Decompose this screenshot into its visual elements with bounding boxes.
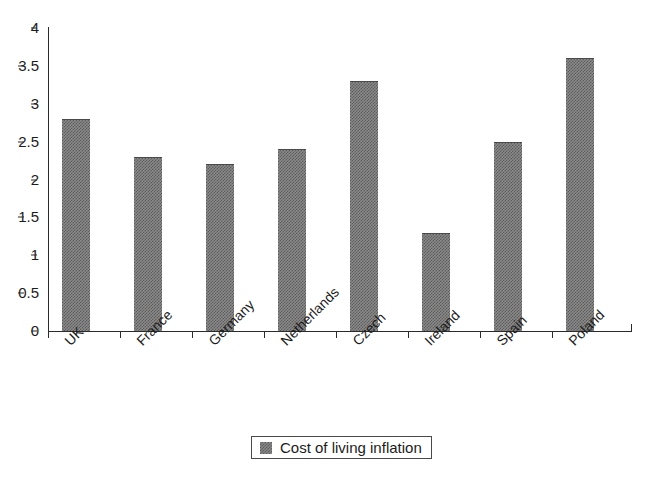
bar-spain <box>494 142 522 331</box>
bar-uk <box>62 119 90 331</box>
y-axis-tick-mark <box>31 255 37 256</box>
y-axis-tick-mark <box>31 103 37 104</box>
y-axis-tick: 4 <box>31 19 48 37</box>
bar-germany <box>206 164 234 331</box>
y-axis-tick: 2.5 <box>18 133 48 151</box>
x-axis-tick-mark <box>480 331 481 338</box>
x-axis-tick-mark <box>48 331 49 338</box>
bar-czech <box>350 81 378 331</box>
y-axis-tick-mark <box>18 65 24 66</box>
legend-entry-label: Cost of living inflation <box>280 440 422 455</box>
x-axis-tick-mark <box>264 331 265 338</box>
y-axis-tick-mark <box>18 293 24 294</box>
x-axis-tick-mark <box>336 331 337 338</box>
y-axis-tick: 1 <box>31 246 48 264</box>
bar-chart-figure: 0 0.5 1 1.5 2 2.5 3 3.5 <box>0 0 646 477</box>
y-axis-tick-mark <box>31 28 37 29</box>
legend-swatch-icon <box>260 442 272 454</box>
y-axis-tick-mark <box>31 179 37 180</box>
y-axis-tick: 1.5 <box>18 208 48 226</box>
y-axis-tick: 0 <box>31 322 48 340</box>
x-axis-tick-mark <box>408 331 409 338</box>
x-axis-tick-mark <box>120 331 121 338</box>
y-axis-tick-mark <box>31 331 37 332</box>
x-axis-tick-mark <box>552 331 553 338</box>
y-axis-tick-mark <box>18 141 24 142</box>
x-axis-line <box>48 331 632 332</box>
bar-france <box>134 157 162 331</box>
y-axis-tick: 3 <box>31 95 48 113</box>
y-axis-tick-mark <box>18 217 24 218</box>
plot-area: 0 0.5 1 1.5 2 2.5 3 3.5 <box>48 28 632 331</box>
y-axis-tick: 0.5 <box>18 284 48 302</box>
bar-netherlands <box>278 149 306 331</box>
bar-poland <box>566 58 594 331</box>
y-axis-tick: 2 <box>31 171 48 189</box>
chart-legend: Cost of living inflation <box>251 436 432 459</box>
x-axis-tick-mark <box>192 331 193 338</box>
y-axis-tick: 3.5 <box>18 57 48 75</box>
